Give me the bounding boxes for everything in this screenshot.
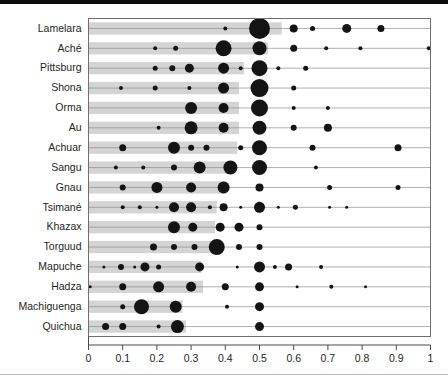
bubble-aché-2 bbox=[216, 40, 232, 56]
bubble-torguud-0 bbox=[150, 244, 157, 251]
bubble-lamelara-3 bbox=[310, 26, 315, 31]
bubble-khazax-2 bbox=[216, 223, 225, 232]
bubble-gnau-1 bbox=[151, 182, 162, 193]
bubble-torguud-1 bbox=[171, 244, 177, 250]
bubble-shona-0 bbox=[119, 86, 123, 90]
bubble-pittsburg-3 bbox=[218, 63, 229, 74]
bubble-au-5 bbox=[324, 124, 332, 132]
bubble-quichua-4 bbox=[255, 322, 264, 331]
bubble-torguud-4 bbox=[236, 244, 242, 250]
y-axis-label-shona: Shona bbox=[51, 81, 82, 93]
bubble-mapuche-5 bbox=[195, 262, 204, 271]
bubble-tsimané-12 bbox=[345, 206, 348, 209]
bubble-pittsburg-1 bbox=[169, 65, 175, 71]
x-tick-label-4: 0.4 bbox=[218, 352, 233, 364]
bubble-orma-0 bbox=[185, 102, 197, 114]
bubble-sangu-1 bbox=[141, 166, 145, 170]
y-axis-label-hadza: Hadza bbox=[51, 280, 82, 292]
bubble-shona-4 bbox=[251, 79, 269, 97]
bubble-quichua-2 bbox=[157, 325, 161, 329]
bubble-pittsburg-0 bbox=[153, 66, 158, 71]
bubble-pittsburg-6 bbox=[276, 66, 280, 70]
bubble-mapuche-10 bbox=[319, 265, 323, 269]
bubble-torguud-5 bbox=[257, 244, 263, 250]
bubble-gnau-5 bbox=[327, 185, 332, 190]
y-axis-label-orma: Orma bbox=[55, 101, 81, 113]
bubble-tsimané-10 bbox=[293, 205, 298, 210]
y-axis-label-lamelara: Lamelara bbox=[38, 22, 82, 34]
bubble-mapuche-8 bbox=[273, 265, 277, 269]
bubble-sangu-4 bbox=[223, 161, 237, 175]
bubble-mapuche-9 bbox=[285, 263, 292, 270]
bubble-orma-2 bbox=[251, 99, 268, 116]
bubble-tsimané-9 bbox=[277, 206, 280, 209]
bubble-tsimané-8 bbox=[254, 202, 265, 213]
bubble-shona-1 bbox=[153, 86, 158, 91]
bubble-achuar-5 bbox=[252, 140, 267, 155]
y-axis-label-mapuche: Mapuche bbox=[38, 260, 81, 272]
bubble-hadza-2 bbox=[153, 281, 164, 292]
y-axis-label-gnau: Gnau bbox=[56, 181, 82, 193]
y-axis-label-quichua: Quichua bbox=[42, 320, 81, 332]
bubble-achuar-1 bbox=[168, 142, 180, 154]
bubble-machiguenga-2 bbox=[170, 301, 182, 313]
y-axis-label-achuar: Achuar bbox=[48, 141, 82, 153]
bubble-gnau-6 bbox=[396, 185, 401, 190]
bubble-shona-2 bbox=[187, 86, 191, 90]
bubble-gnau-4 bbox=[256, 183, 264, 191]
bubble-gnau-2 bbox=[186, 182, 196, 192]
x-tick-label-0: 0 bbox=[86, 352, 92, 364]
bubble-tsimané-3 bbox=[169, 202, 179, 212]
bubble-mapuche-3 bbox=[140, 262, 149, 271]
bubble-hadza-4 bbox=[222, 283, 229, 290]
bubble-machiguenga-3 bbox=[225, 305, 229, 309]
bubble-hadza-5 bbox=[255, 282, 264, 291]
bubble-achuar-4 bbox=[238, 145, 243, 150]
bubble-lamelara-1 bbox=[249, 18, 270, 39]
bubble-mapuche-7 bbox=[254, 261, 265, 272]
bubble-chart: LamelaraAchéPittsburgShonaOrmaAuAchuarSa… bbox=[0, 0, 448, 381]
x-tick-label-9: 0.9 bbox=[389, 352, 404, 364]
x-tick-label-10: 1 bbox=[428, 352, 434, 364]
bubble-orma-3 bbox=[292, 106, 296, 110]
bubble-pittsburg-7 bbox=[303, 66, 308, 71]
bubble-tsimané-5 bbox=[208, 205, 212, 209]
bubble-sangu-5 bbox=[252, 160, 267, 175]
bubble-aché-6 bbox=[358, 46, 362, 50]
bubble-pittsburg-2 bbox=[185, 64, 194, 73]
bubble-mapuche-0 bbox=[102, 265, 105, 268]
bubble-khazax-3 bbox=[234, 223, 243, 232]
bubble-aché-0 bbox=[153, 46, 157, 50]
bubble-au-2 bbox=[219, 123, 229, 133]
bubble-tsimané-6 bbox=[220, 203, 228, 211]
bubble-achuar-2 bbox=[188, 145, 194, 151]
bubble-sangu-2 bbox=[171, 165, 177, 171]
y-axis-label-sangu: Sangu bbox=[51, 161, 82, 173]
y-axis-label-machiguenga: Machiguenga bbox=[18, 300, 81, 312]
bubble-pittsburg-4 bbox=[239, 66, 243, 70]
y-axis-label-khazax: Khazax bbox=[46, 220, 82, 232]
y-axis-labels-group: LamelaraAchéPittsburgShonaOrmaAuAchuarSa… bbox=[18, 22, 82, 332]
bubble-aché-1 bbox=[173, 46, 178, 51]
x-tick-label-1: 0.1 bbox=[115, 352, 130, 364]
bubble-machiguenga-1 bbox=[134, 299, 149, 314]
bubble-hadza-8 bbox=[364, 285, 367, 288]
bubble-gnau-3 bbox=[218, 181, 230, 193]
figure-container: LamelaraAchéPittsburgShonaOrmaAuAchuarSa… bbox=[0, 0, 448, 381]
y-axis-label-aché: Aché bbox=[58, 42, 82, 54]
bubble-torguud-2 bbox=[192, 244, 198, 250]
x-tick-label-6: 0.6 bbox=[286, 352, 301, 364]
bubble-hadza-0 bbox=[89, 285, 92, 288]
bubble-lamelara-5 bbox=[377, 25, 384, 32]
x-tick-label-3: 0.3 bbox=[184, 352, 199, 364]
bubble-hadza-7 bbox=[329, 285, 333, 289]
bubble-aché-3 bbox=[253, 41, 267, 55]
bubble-tsimané-2 bbox=[155, 206, 158, 209]
x-tick-label-8: 0.8 bbox=[355, 352, 370, 364]
bubble-hadza-1 bbox=[119, 283, 126, 290]
bubble-hadza-6 bbox=[296, 285, 299, 288]
bubble-lamelara-2 bbox=[290, 24, 298, 32]
bubble-khazax-0 bbox=[168, 221, 180, 233]
bubble-au-3 bbox=[253, 121, 267, 135]
x-tick-label-5: 0.5 bbox=[252, 352, 267, 364]
